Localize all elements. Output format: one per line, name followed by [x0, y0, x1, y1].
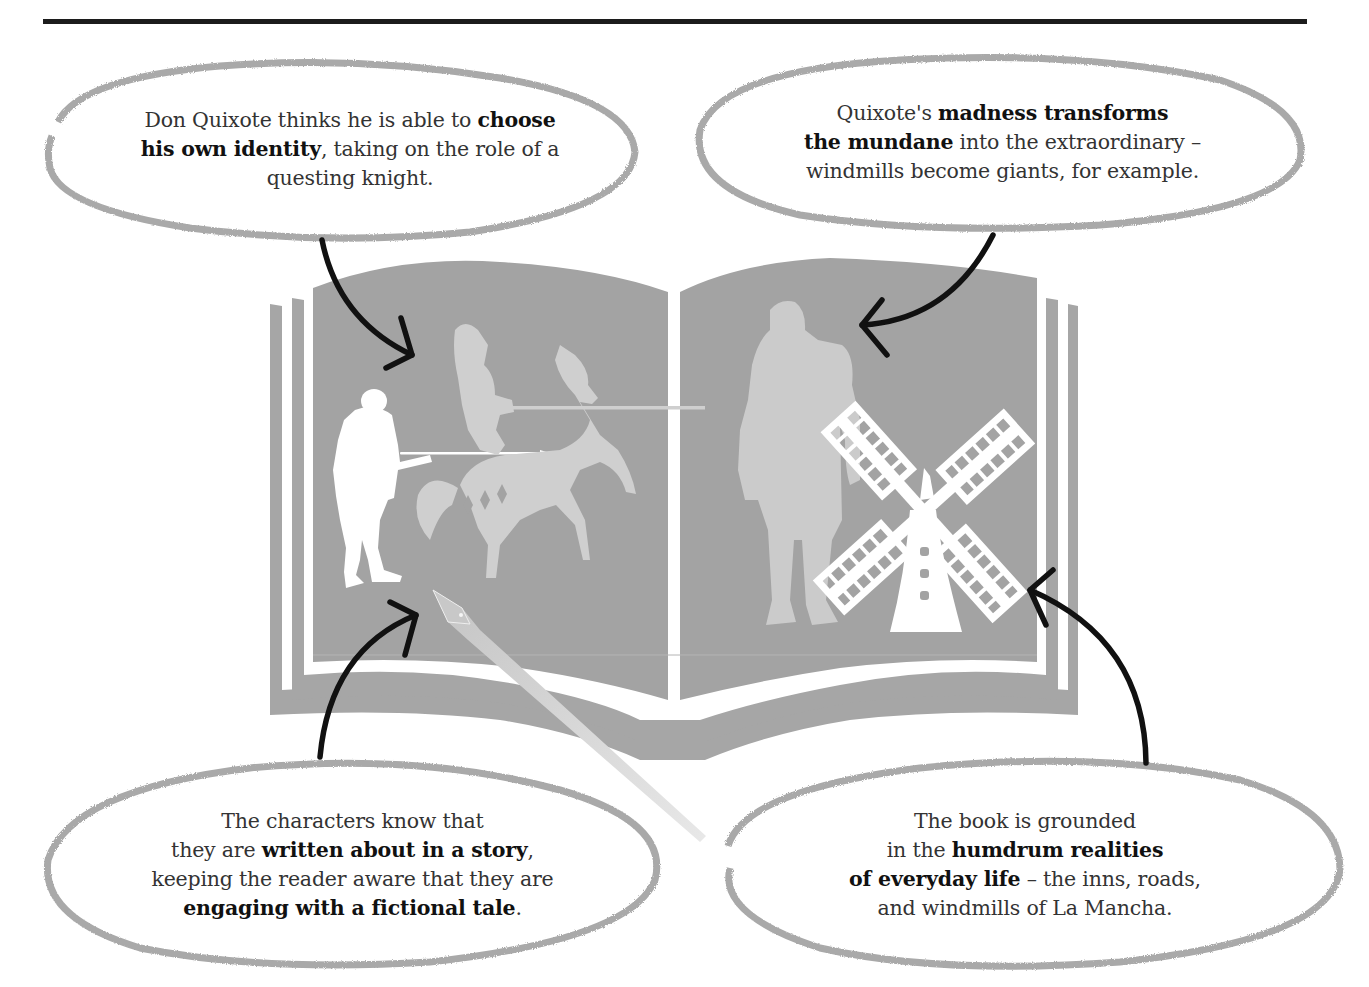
callout-written-about: The characters know that they are writte…: [85, 807, 620, 923]
open-book: [270, 258, 1078, 760]
callout-madness-transforms: Quixote's madness transforms the mundane…: [730, 99, 1275, 186]
callout-humdrum-realities: The book is grounded in the humdrum real…: [760, 807, 1290, 923]
callout-choose-identity: Don Quixote thinks he is able to choose …: [80, 106, 620, 193]
